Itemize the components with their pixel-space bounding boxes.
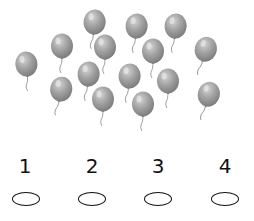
answer-bubble-3[interactable] — [144, 192, 172, 206]
balloon-icon — [156, 68, 180, 108]
choice-label-3: 3 — [143, 156, 173, 176]
balloon-icon — [50, 33, 74, 73]
balloon-icon — [187, 34, 221, 79]
balloon-icon — [161, 12, 188, 54]
balloon-icon — [45, 74, 76, 118]
answer-bubble-4[interactable] — [211, 192, 239, 206]
answer-bubble-1[interactable] — [12, 192, 40, 206]
choice-label-2: 2 — [77, 156, 107, 176]
answer-bubble-2[interactable] — [78, 192, 106, 206]
balloon-icon — [190, 79, 224, 124]
balloon-icon — [131, 91, 155, 131]
choice-label-1: 1 — [10, 156, 40, 176]
choice-label-4: 4 — [210, 156, 240, 176]
worksheet: 1 2 3 4 — [0, 0, 254, 221]
balloon-icon — [13, 50, 40, 92]
balloon-icon — [91, 86, 115, 126]
